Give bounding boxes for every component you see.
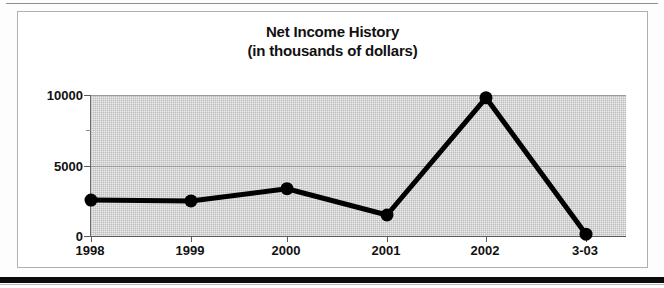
page-bottom-rule-thin <box>0 284 664 285</box>
y-axis-labels: 10000 5000 0 <box>35 23 83 280</box>
y-tick-5000 <box>84 166 91 167</box>
net-income-series <box>91 95 626 237</box>
y-tick-label-10000: 10000 <box>47 89 83 102</box>
y-tick-label-0: 0 <box>76 230 83 243</box>
data-point-2000 <box>281 182 294 195</box>
chart-frame: Net Income History (in thousands of doll… <box>17 11 648 268</box>
x-tick-label-2002: 2002 <box>471 244 500 258</box>
chart-title: Net Income History (in thousands of doll… <box>18 22 647 60</box>
data-point-2002 <box>480 91 493 104</box>
x-axis-labels: 1998 1999 2000 2001 2002 3-03 <box>18 244 647 264</box>
scanned-page: Net Income History (in thousands of doll… <box>0 0 664 288</box>
data-point-3-03 <box>580 228 593 241</box>
series-polyline <box>91 98 586 234</box>
plot-area <box>90 95 626 237</box>
x-tick-label-1999: 1999 <box>176 244 205 258</box>
data-point-1998 <box>85 194 98 207</box>
chart-title-line2: (in thousands of dollars) <box>18 41 647 60</box>
page-top-rule <box>6 3 658 4</box>
y-tick-label-5000: 5000 <box>54 160 83 173</box>
x-tick-label-2001: 2001 <box>372 244 401 258</box>
data-point-1999 <box>185 194 198 207</box>
data-point-2001 <box>381 208 394 221</box>
chart-title-line1: Net Income History <box>266 23 399 40</box>
x-tick-label-2000: 2000 <box>272 244 301 258</box>
y-tick-0 <box>84 236 91 237</box>
series-markers <box>85 91 593 240</box>
x-tick-label-1998: 1998 <box>76 244 105 258</box>
page-bottom-rule <box>0 277 664 283</box>
y-tick-10000 <box>84 95 91 96</box>
x-tick-label-3-03: 3-03 <box>572 244 598 258</box>
